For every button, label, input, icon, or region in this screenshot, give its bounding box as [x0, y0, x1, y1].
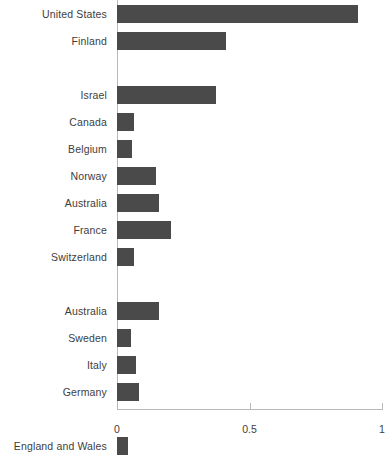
bar [117, 5, 358, 23]
bar [117, 32, 226, 50]
bar-row: Norway [0, 167, 392, 185]
bar-category-label: Australia [65, 198, 107, 209]
bar-row: Italy [0, 356, 392, 374]
bar [117, 383, 139, 401]
bar [117, 302, 159, 320]
bar-category-label: Belgium [68, 144, 107, 155]
bar-row: Australia [0, 302, 392, 320]
bar [117, 329, 131, 347]
bar [117, 248, 134, 266]
bar-row: Finland [0, 32, 392, 50]
bar-row: France [0, 221, 392, 239]
bar [117, 140, 132, 158]
bar-category-label: Switzerland [51, 252, 107, 263]
x-axis-tick [250, 403, 251, 410]
bar-category-label: Italy [87, 360, 107, 371]
bar [117, 221, 171, 239]
bar-category-label: Norway [71, 171, 108, 182]
bar-category-label: Israel [80, 90, 107, 101]
bar-category-label: Finland [72, 36, 108, 47]
bar-category-label: Sweden [68, 333, 107, 344]
bar-row: Canada [0, 113, 392, 131]
bar-row: England and Wales [0, 437, 392, 455]
bar-category-label: Canada [69, 117, 107, 128]
bar [117, 194, 159, 212]
bar-category-label: Germany [63, 387, 107, 398]
bar-row: Israel [0, 86, 392, 104]
bar-row: United States [0, 5, 392, 23]
bar-row: Sweden [0, 329, 392, 347]
bar-category-label: Australia [65, 306, 107, 317]
bar [117, 167, 156, 185]
bar-category-label: England and Wales [14, 441, 107, 452]
x-axis-tick [382, 403, 383, 410]
bar [117, 437, 128, 455]
x-axis-tick-label: 0.5 [242, 424, 257, 435]
bar-row: Switzerland [0, 248, 392, 266]
bar-category-label: France [73, 225, 107, 236]
bar [117, 86, 216, 104]
bar-row: Belgium [0, 140, 392, 158]
bar [117, 356, 136, 374]
bar-category-label: United States [42, 9, 107, 20]
x-axis-tick-label: 0 [114, 424, 120, 435]
bar-row: Australia [0, 194, 392, 212]
bar [117, 113, 134, 131]
bar-row: Germany [0, 383, 392, 401]
x-axis-tick-label: 1 [379, 424, 385, 435]
